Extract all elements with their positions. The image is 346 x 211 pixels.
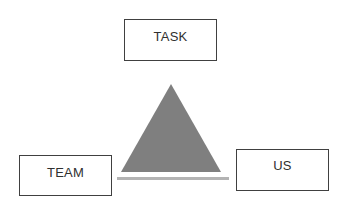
triangle-base-line — [117, 177, 229, 180]
team-box: TEAM — [19, 155, 112, 196]
task-label: TASK — [154, 29, 188, 60]
team-label: TEAM — [47, 165, 84, 195]
triangle-shape — [121, 84, 221, 172]
us-label: US — [273, 158, 291, 190]
us-box: US — [236, 149, 329, 191]
task-box: TASK — [124, 19, 217, 61]
